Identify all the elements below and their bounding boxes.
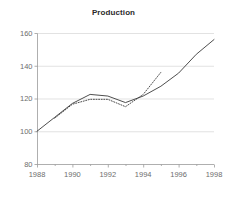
x-axis-tickmarks: [35, 34, 215, 168]
ytick-label-80: 80: [24, 160, 32, 169]
series-line-actual: [37, 40, 214, 132]
ytick-label-160: 160: [20, 29, 33, 38]
line-chart-plot: 80100120140160 198819901992199419961998: [0, 0, 227, 200]
data-series-group: [37, 40, 214, 132]
ytick-label-140: 140: [20, 62, 33, 71]
ytick-label-120: 120: [20, 94, 33, 103]
ytick-label-100: 100: [20, 127, 33, 136]
chart-container: Production 80100120140160 19881990199219…: [0, 0, 227, 200]
xtick-label-1992: 1992: [99, 170, 116, 179]
x-axis-tick-labels: 198819901992199419961998: [29, 170, 223, 179]
xtick-label-1988: 1988: [29, 170, 46, 179]
xtick-label-1994: 1994: [135, 170, 152, 179]
xtick-label-1990: 1990: [64, 170, 81, 179]
gridlines-group: [37, 66, 214, 132]
xtick-label-1998: 1998: [206, 170, 223, 179]
xtick-label-1996: 1996: [170, 170, 187, 179]
y-axis-tick-labels: 80100120140160: [20, 29, 33, 169]
